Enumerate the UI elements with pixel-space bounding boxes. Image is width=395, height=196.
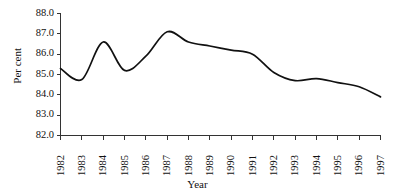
data-series-line	[61, 31, 381, 96]
x-axis-tick-label: 1983	[76, 142, 87, 176]
x-axis-tick-label: 1982	[55, 142, 66, 176]
x-axis-tick-label: 1989	[204, 142, 215, 176]
x-axis-tick-label: 1990	[225, 142, 236, 176]
y-axis-tick-label: 82.0	[16, 129, 54, 140]
x-axis-tick-label: 1995	[332, 142, 343, 176]
y-axis-tick-label: 88.0	[16, 7, 54, 18]
x-axis-tick-label: 1996	[353, 142, 364, 176]
x-axis-tick-label: 1985	[119, 142, 130, 176]
y-axis-tick-label: 87.0	[16, 27, 54, 38]
x-axis-tick-label: 1997	[375, 142, 386, 176]
x-axis-tick-label: 1994	[311, 142, 322, 176]
x-axis-tick-label: 1988	[183, 142, 194, 176]
y-axis-tick-label: 83.0	[16, 108, 54, 119]
x-axis-tick-label: 1993	[289, 142, 300, 176]
plot-axes	[57, 14, 381, 140]
x-axis-tick-label: 1986	[140, 142, 151, 176]
x-axis-title: Year	[0, 178, 395, 190]
x-axis-tick-label: 1992	[268, 142, 279, 176]
x-axis-tick-label: 1984	[97, 142, 108, 176]
y-axis-ticks	[57, 14, 61, 136]
y-axis-tick-label: 84.0	[16, 88, 54, 99]
chart-figure: 88.087.086.085.084.083.082.0 19821983198…	[0, 0, 395, 196]
y-axis-title: Per cent	[11, 48, 27, 84]
x-axis-tick-label: 1991	[247, 142, 258, 176]
x-axis-ticks	[61, 136, 381, 140]
x-axis-tick-label: 1987	[161, 142, 172, 176]
